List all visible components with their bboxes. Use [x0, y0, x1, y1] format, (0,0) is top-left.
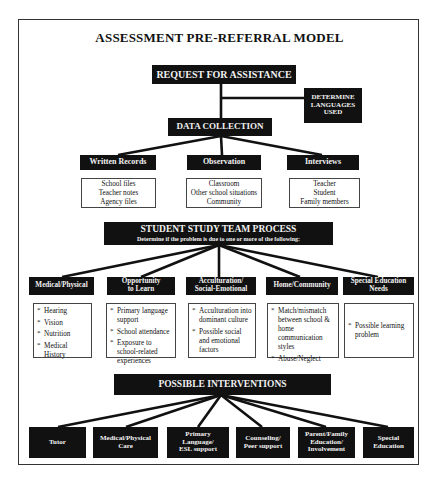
source-item: Student: [314, 189, 336, 198]
sst-label: STUDENT STUDY TEAM PROCESS: [141, 224, 297, 234]
factor-label: Home/Community: [273, 282, 330, 290]
intervention-label: Involvement: [308, 446, 345, 454]
factor-detail-opportunity-to-learn: Primary language support School attendan…: [106, 303, 176, 358]
factor-item: Possible learning problem: [348, 322, 410, 340]
factor-item: Acculturation into dominant culture: [192, 307, 252, 325]
request-label: REQUEST FOR ASSISTANCE: [156, 69, 291, 80]
source-item: School files: [101, 180, 135, 189]
data-collection-label: DATA COLLECTION: [177, 122, 264, 132]
intervention-label: Peer support: [244, 443, 283, 451]
factor-item: Match/mismatch between school & home com…: [271, 307, 335, 352]
source-item: Family members: [300, 198, 349, 207]
factor-list: Match/mismatch between school & home com…: [268, 304, 338, 364]
possible-interventions-box: POSSIBLE INTERVENTIONS: [114, 374, 331, 395]
factor-list: Possible learning problem: [345, 319, 413, 343]
source-label: Observation: [203, 158, 245, 167]
intervention-label: Care: [118, 443, 133, 451]
intervention-medical-physical-care: Medical/Physical Care: [93, 427, 158, 458]
factor-label: to Learn: [128, 286, 155, 294]
determine-languages-box: DETERMINE LANGUAGES USED: [304, 88, 362, 123]
source-detail-observation: Classroom Other school situations Commun…: [186, 178, 262, 208]
source-header-observation: Observation: [187, 155, 261, 170]
intervention-special-education: Special Education: [363, 427, 414, 458]
source-header-written-records: Written Records: [80, 155, 156, 170]
intervention-label: Education: [373, 443, 404, 451]
source-label: Interviews: [305, 158, 341, 167]
source-item: Agency files: [100, 198, 137, 207]
source-item: Community: [207, 198, 241, 207]
sst-sublabel: Determine if the problem is due to one o…: [137, 236, 300, 243]
factor-header-special-education-needs: Special Education Needs: [343, 277, 414, 295]
source-item: Classroom: [209, 180, 240, 189]
factor-label: Medical/Physical: [35, 282, 87, 290]
source-detail-interviews: Teacher Student Family members: [289, 178, 360, 208]
source-header-interviews: Interviews: [287, 155, 359, 170]
data-collection-box: DATA COLLECTION: [168, 118, 272, 136]
factor-label: Needs: [369, 286, 387, 294]
factor-list: Primary language support School attendan…: [107, 304, 175, 366]
source-label: Written Records: [90, 158, 147, 167]
factor-detail-acculturation: Acculturation into dominant culture Poss…: [188, 303, 256, 358]
factor-header-medical-physical: Medical/Physical: [29, 277, 94, 295]
source-detail-written-records: School files Teacher notes Agency files: [81, 178, 156, 208]
factor-detail-home-community: Match/mismatch between school & home com…: [267, 303, 339, 358]
source-item: Teacher: [313, 180, 336, 189]
factor-header-home-community: Home/Community: [266, 277, 338, 295]
factor-item: Abuse/Neglect: [271, 355, 335, 364]
factor-item: Exposure to school-related experiences: [110, 339, 172, 366]
factor-item: Primary language support: [110, 307, 172, 325]
factor-list: Hearing Vision Nutrition Medical History: [34, 304, 91, 360]
factor-item: Medical History: [37, 342, 74, 360]
factor-item: Vision: [37, 319, 88, 328]
factor-label: Social-Emotional: [195, 286, 248, 294]
intervention-label: Tutor: [49, 439, 66, 447]
intervention-primary-language: Primary Language/ ESL support: [167, 427, 229, 458]
factor-detail-special-education: Possible learning problem: [344, 303, 414, 358]
intervention-counseling: Counseling/ Peer support: [236, 427, 290, 458]
source-item: Teacher notes: [99, 189, 139, 198]
request-for-assistance-box: REQUEST FOR ASSISTANCE: [152, 65, 296, 84]
factor-item: Possible social and emotional factors: [192, 328, 252, 355]
factor-item: Nutrition: [37, 330, 88, 339]
intervention-parent-family: Parent/Family Education/ Involvement: [298, 427, 355, 458]
factor-header-acculturation: Acculturation/ Social-Emotional: [186, 277, 256, 295]
factor-item: Hearing: [37, 307, 88, 316]
factor-detail-medical-physical: Hearing Vision Nutrition Medical History: [33, 303, 92, 358]
intervention-label: ESL support: [179, 446, 217, 454]
interventions-label: POSSIBLE INTERVENTIONS: [158, 379, 286, 389]
source-item: Other school situations: [191, 189, 257, 198]
factor-item: School attendance: [110, 328, 172, 337]
factor-header-opportunity-to-learn: Opportunity to Learn: [107, 277, 175, 295]
languages-line3: USED: [324, 109, 343, 117]
factor-list: Acculturation into dominant culture Poss…: [189, 304, 255, 355]
student-study-team-box: STUDENT STUDY TEAM PROCESS Determine if …: [104, 222, 333, 245]
intervention-tutor: Tutor: [29, 427, 86, 458]
